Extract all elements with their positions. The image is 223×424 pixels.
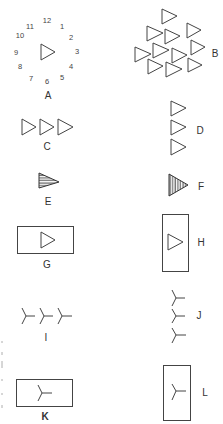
triangle-icon [168, 234, 183, 250]
panel-label-f: F [198, 181, 204, 192]
triangle-icon [187, 23, 201, 38]
panel-label-e: E [45, 196, 52, 207]
clock-numeral-3: 3 [75, 47, 79, 56]
panel-label-a: A [45, 90, 52, 101]
y-symbol-icon [58, 308, 72, 324]
rectangle-frame [163, 215, 189, 272]
triangle-icon [171, 139, 186, 155]
panel-label-c: C [43, 141, 50, 152]
triangle-icon [148, 59, 163, 74]
panel-b: B [135, 9, 219, 77]
triangle-icon [22, 119, 36, 135]
triangle-icon [171, 120, 186, 135]
clock-numeral-5: 5 [60, 73, 64, 82]
triangle-icon [191, 40, 205, 55]
triangle-icon [166, 62, 182, 77]
panel-c: C [22, 119, 73, 152]
panel-label-l: L [202, 387, 208, 398]
panel-d: D [171, 101, 204, 155]
panel-label-i: I [45, 332, 48, 343]
triangle-icon [171, 101, 186, 116]
triangle-icon [41, 232, 55, 248]
clock-numeral-8: 8 [18, 62, 22, 71]
panel-e: E [39, 173, 59, 207]
clock-numeral-2: 2 [69, 33, 73, 42]
triangle-icon [41, 44, 55, 60]
clock-numeral-1: 1 [60, 22, 64, 31]
clock-numeral-11: 11 [26, 22, 34, 31]
clock-numeral-6: 6 [45, 77, 49, 86]
y-symbol-icon [172, 328, 186, 343]
triangle-icon [172, 48, 187, 63]
panel-label-h: H [197, 237, 204, 248]
clock-numeral-9: 9 [14, 48, 18, 57]
y-symbol-icon [172, 309, 185, 323]
y-symbol-icon [172, 290, 185, 306]
panel-f: F [169, 174, 204, 196]
panel-label-j: J [197, 310, 202, 321]
triangle-icon [147, 26, 163, 41]
symbol-figure: 12 1 2 3 4 5 6 7 8 9 10 11 A B C [0, 0, 223, 424]
clock-numeral-12: 12 [43, 16, 51, 25]
panel-label-g: G [43, 259, 51, 270]
panel-label-k: K [41, 411, 49, 422]
panel-label-d: D [196, 125, 203, 136]
panel-a: 12 1 2 3 4 5 6 7 8 9 10 11 A [14, 16, 79, 101]
triangle-icon [153, 43, 169, 58]
clock-numeral-7: 7 [29, 74, 33, 83]
panel-j [172, 290, 186, 343]
clock-numeral-10: 10 [16, 31, 24, 40]
panel-g: G [18, 227, 74, 271]
clock-numeral-4: 4 [69, 62, 73, 71]
y-symbol-icon [22, 308, 35, 324]
y-symbol-icon [40, 308, 53, 324]
striped-triangle-icon [39, 173, 59, 188]
panel-h: H [163, 215, 205, 272]
rectangle-frame [18, 227, 74, 254]
panel-i [22, 308, 72, 324]
panel-label-b: B [212, 48, 219, 59]
triangle-icon [188, 58, 202, 72]
panel-l: L [164, 366, 209, 421]
triangle-icon [40, 119, 54, 135]
triangle-icon [162, 9, 177, 24]
y-symbol-icon [38, 385, 52, 401]
rectangle-frame [164, 366, 191, 421]
y-symbol-icon [172, 384, 186, 400]
triangle-icon [58, 119, 73, 135]
striped-triangle-icon [169, 174, 188, 196]
triangle-icon [165, 29, 180, 44]
panel-k: K [17, 380, 73, 423]
